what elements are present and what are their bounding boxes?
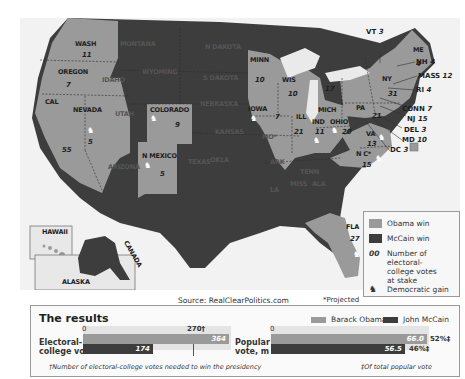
democratic-gain-icon: ♞: [313, 136, 320, 145]
state-label-va: VA: [366, 130, 375, 138]
state-label-or: OREGON: [58, 68, 88, 76]
state-label-fl: FLA: [346, 223, 359, 231]
state-votes-nv: 5: [88, 138, 93, 146]
state-label-co: COLORADO: [150, 106, 189, 114]
state-label-ne: NEBRASKA: [200, 100, 238, 108]
callout-dc: DC 3: [390, 146, 408, 154]
callout-nj: NJ 15: [407, 115, 428, 123]
donkey-icon: ♞: [369, 285, 382, 294]
callout-de: DEL 3: [404, 126, 426, 134]
state-votes-il: 21: [294, 128, 304, 136]
state-label-mn: MINN: [250, 56, 269, 64]
obama-swatch: [369, 219, 382, 228]
democratic-gain-icon: ♞: [150, 114, 157, 123]
state-label-ks: KANSAS: [215, 128, 244, 136]
mccain-bar-swatch: [383, 317, 398, 323]
popular-obama-bar: 66.0: [271, 334, 427, 344]
legend-votes-at-stake: 00 Number of electoral- college votes at…: [369, 249, 437, 285]
state-votes-ca: 55: [62, 146, 72, 154]
state-votes-ia: 7: [275, 113, 280, 121]
state-label-tx: TEXAS: [188, 158, 211, 166]
state-label-nd: N DAKOTA: [205, 43, 241, 51]
popular-row-label: Popular vote, m: [235, 338, 270, 356]
electoral-threshold-label: 270†: [187, 325, 205, 333]
state-label-pa: PA: [356, 104, 365, 112]
state-label-sd: S DAKOTA: [203, 74, 238, 82]
state-label-nc: N C*: [356, 150, 371, 158]
results-title: The results: [39, 312, 108, 325]
state-label-ca: CAL: [45, 98, 58, 106]
mccain-popular-pct: 46%‡: [409, 345, 429, 353]
electoral-mccain-bar: 174: [83, 344, 153, 354]
democratic-gain-icon: ♞: [331, 126, 338, 135]
state-label-ia: IOWA: [248, 105, 267, 113]
democratic-gain-icon: ♞: [353, 250, 360, 259]
callout-ri: RI 4: [416, 86, 431, 94]
state-votes-ny: 31: [388, 90, 398, 98]
popular-footnote: ‡Of total popular vote: [361, 363, 432, 371]
obama-bar-swatch: [311, 317, 326, 323]
state-label-tn: TENN: [300, 168, 319, 176]
new-mexico-region: [138, 142, 177, 198]
state-votes-fl: 27: [350, 235, 360, 243]
state-label-ak: ALASKA: [62, 278, 90, 286]
state-label-ms: MISS: [290, 180, 307, 188]
state-label-mt: MONTANA: [120, 40, 155, 48]
results-panel: The results Barack Obama John McCain 0 2…: [30, 305, 460, 377]
state-label-az: ARIZONA: [108, 163, 140, 171]
map-legend: Obama win McCain win 00 Number of electo…: [363, 211, 460, 297]
democratic-gain-icon: ♞: [87, 126, 94, 135]
democratic-gain-icon: ♞: [144, 161, 151, 170]
state-votes-mi: 17: [325, 85, 335, 93]
state-votes-in: 11: [315, 128, 325, 136]
callout-md: MD 10: [402, 136, 427, 144]
electoral-footnote: †Number of electoral-college votes neede…: [49, 363, 261, 371]
state-votes-nm: 5: [160, 170, 165, 178]
democratic-gain-icon: ♞: [378, 133, 385, 142]
legend-obama-win: Obama win: [369, 219, 430, 228]
state-label-oh: OHIO: [330, 118, 348, 126]
state-label-hi: HAWAII: [42, 228, 68, 236]
state-votes-mn: 10: [255, 76, 265, 84]
state-votes-or: 7: [66, 81, 71, 89]
popular-axis-zero: 0: [270, 325, 274, 333]
state-votes-wa: 11: [82, 51, 92, 59]
callout-ma: MASS 12: [418, 72, 452, 80]
state-label-il: ILL: [296, 113, 306, 121]
democratic-gain-icon: ♞: [250, 114, 257, 123]
legend-mccain-win: McCain win: [369, 234, 430, 243]
state-label-nv: NEVADA: [73, 106, 102, 114]
state-votes-co: 9: [175, 121, 180, 129]
state-label-ny: NY: [382, 75, 392, 83]
state-votes-wi: 10: [288, 90, 298, 98]
callout-nh: NH 4: [416, 58, 435, 66]
callout-ct: CONN 7: [402, 105, 432, 113]
legend-john-mccain: John McCain: [383, 315, 449, 324]
state-label-in: IND: [312, 118, 325, 126]
legend-democratic-gain: ♞ Democratic gain: [369, 285, 449, 294]
electoral-axis-zero: 0: [82, 325, 86, 333]
state-votes-nc: 15: [362, 161, 372, 169]
state-votes-oh: 20: [342, 128, 352, 136]
state-label-al: ALA: [312, 180, 326, 188]
state-votes-va: 13: [367, 140, 377, 148]
dc-swatch: [410, 143, 418, 151]
state-label-wi: WIS: [282, 76, 296, 84]
projected-note: *Projected: [323, 296, 359, 304]
democratic-gain-icon: ♞: [375, 154, 382, 163]
electoral-obama-bar: 364: [83, 334, 229, 344]
state-label-id: IDAHO: [102, 76, 125, 84]
state-label-wa: WASH: [75, 40, 96, 48]
state-label-ut: UTAH: [115, 110, 134, 118]
state-votes-pa: 21: [372, 112, 382, 120]
legend-barack-obama: Barack Obama: [311, 315, 386, 324]
state-label-mi: MICH: [318, 106, 336, 114]
mccain-swatch: [369, 234, 382, 243]
state-label-ok: OKLA: [210, 156, 229, 164]
obama-popular-pct: 52%‡: [430, 335, 450, 343]
popular-mccain-bar: 56.5: [271, 344, 405, 354]
state-label-wy: WYOMING: [142, 68, 177, 76]
state-label-la: LA: [270, 186, 279, 194]
source-note: Source: RealClearPolitics.com: [178, 296, 289, 305]
state-label-nm: N MEXICO: [142, 152, 177, 160]
